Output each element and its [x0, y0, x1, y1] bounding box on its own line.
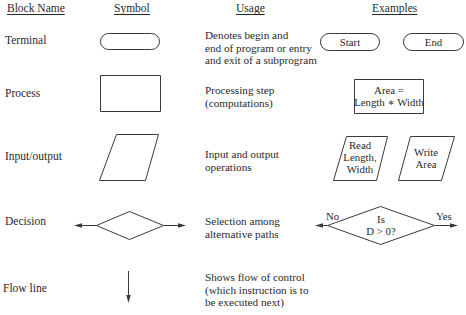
input-output-symbol: [100, 135, 159, 181]
usage-flow-line: Shows flow of control (which instruction…: [205, 271, 308, 309]
usage-process: Processing step (computations): [205, 84, 274, 109]
usage-input-output: Input and output operations: [205, 148, 279, 173]
arrow-right-icon: [178, 223, 186, 227]
example-area-label: Area = Length ∗ Width: [354, 84, 424, 108]
process-symbol: [101, 76, 161, 112]
example-decision-no-label: No: [326, 210, 339, 222]
example-end-label: End: [403, 36, 464, 48]
example-decision-yes-label: Yes: [436, 210, 452, 222]
arrow-left-icon: [74, 223, 82, 227]
example-write-label: Write Area: [403, 146, 449, 170]
example-decision-condition: Is D > 0?: [355, 213, 407, 237]
decision-symbol: [80, 212, 180, 240]
terminal-symbol: [101, 34, 160, 50]
arrow-right-icon: [450, 223, 458, 227]
arrow-down-icon: [126, 295, 130, 303]
usage-decision: Selection among alternative paths: [205, 215, 280, 240]
example-read-label: Read Length, Width: [337, 139, 383, 175]
arrow-left-icon: [315, 223, 323, 227]
example-start-label: Start: [320, 36, 380, 48]
usage-terminal: Denotes begin and end of program or entr…: [205, 29, 317, 67]
